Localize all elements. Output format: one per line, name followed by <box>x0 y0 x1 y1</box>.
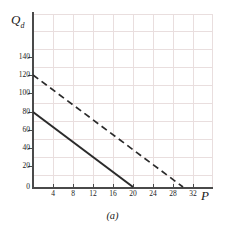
original-demand-curve <box>33 112 133 187</box>
figure-caption: (a) <box>0 210 225 221</box>
demand-curve-figure: Qd P 140 120 100 80 60 40 20 0 4 8 12 16… <box>0 0 225 235</box>
demand-curves <box>0 0 225 235</box>
shifted-demand-curve <box>33 75 183 187</box>
